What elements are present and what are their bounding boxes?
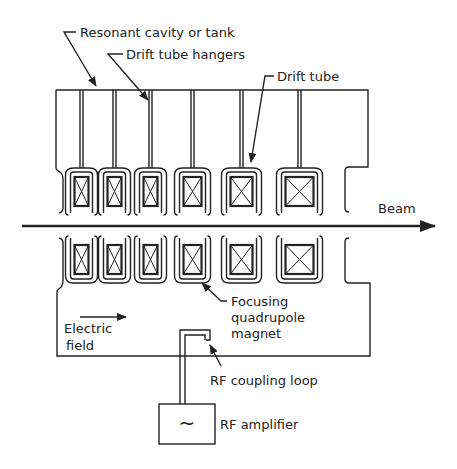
drift-tube xyxy=(222,236,262,283)
drift-tube-hangers xyxy=(80,90,301,168)
cavity-pointer xyxy=(64,32,96,86)
drift-tubes-lower xyxy=(66,236,323,283)
quadrupole-magnet-icon xyxy=(184,245,202,274)
drift-tube xyxy=(222,168,262,215)
linac-diagram: Beam Resonant cavity or tank Drift tube … xyxy=(0,0,457,469)
quadrupole-magnet-icon xyxy=(231,245,253,274)
quadrupole-magnet-icon xyxy=(286,177,314,206)
hangers-label: Drift tube hangers xyxy=(126,47,245,62)
rf-coupling-loop xyxy=(180,330,210,404)
quadrupole-magnet-icon xyxy=(75,245,89,274)
quadrupole-magnet-icon xyxy=(286,245,314,274)
quadrupole-magnet-icon xyxy=(108,177,122,206)
efield-label-2: field xyxy=(66,338,94,353)
drift-tube xyxy=(66,236,98,283)
focusing-label-2: quadrupole xyxy=(231,310,305,325)
amplifier-label: RF amplifier xyxy=(220,417,299,432)
drift-tube xyxy=(99,236,131,283)
focusing-label-1: Focusing xyxy=(231,294,288,309)
drift-tube xyxy=(277,236,323,283)
quadrupole-magnet-icon xyxy=(184,177,202,206)
drift-tube xyxy=(135,168,167,215)
drift-tubes-upper xyxy=(66,168,323,215)
drift-tube-label: Drift tube xyxy=(277,69,339,84)
ac-source-icon: ~ xyxy=(179,411,196,435)
beam-label: Beam xyxy=(378,201,416,216)
drift-tube xyxy=(277,168,323,215)
drift-tube xyxy=(66,168,98,215)
efield-label-1: Electric xyxy=(64,321,112,336)
quadrupole-magnet-icon xyxy=(144,245,158,274)
cavity-label: Resonant cavity or tank xyxy=(80,25,235,40)
quadrupole-magnet-icon xyxy=(108,245,122,274)
quadrupole-magnet-icon xyxy=(231,177,253,206)
quadrupole-magnet-icon xyxy=(75,177,89,206)
quadrupole-pointer xyxy=(202,283,227,301)
drift-tube xyxy=(135,236,167,283)
drift-tube xyxy=(99,168,131,215)
quadrupole-magnet-icon xyxy=(144,177,158,206)
focusing-label-3: magnet xyxy=(231,326,281,341)
drift-tube xyxy=(175,236,211,283)
drift-tube xyxy=(175,168,211,215)
drift-tube-pointer xyxy=(251,76,274,162)
coupling-label: RF coupling loop xyxy=(210,373,318,388)
